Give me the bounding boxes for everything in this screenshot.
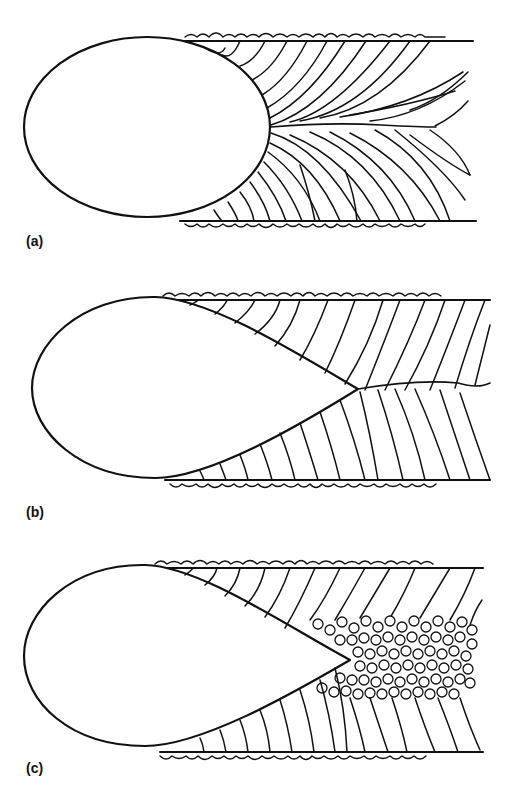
- weld-pool-diagram: [0, 0, 517, 793]
- panel-label-a: (a): [26, 233, 43, 249]
- panel-a-drawing: [24, 33, 476, 228]
- panel-label-c: (c): [26, 760, 43, 776]
- panel-b-drawing: [32, 293, 490, 488]
- weld-pool-teardrop-equiaxed: [24, 565, 350, 746]
- panel-c-drawing: [24, 561, 483, 760]
- weld-pool-elliptical: [24, 37, 270, 217]
- panel-label-b: (b): [26, 504, 44, 520]
